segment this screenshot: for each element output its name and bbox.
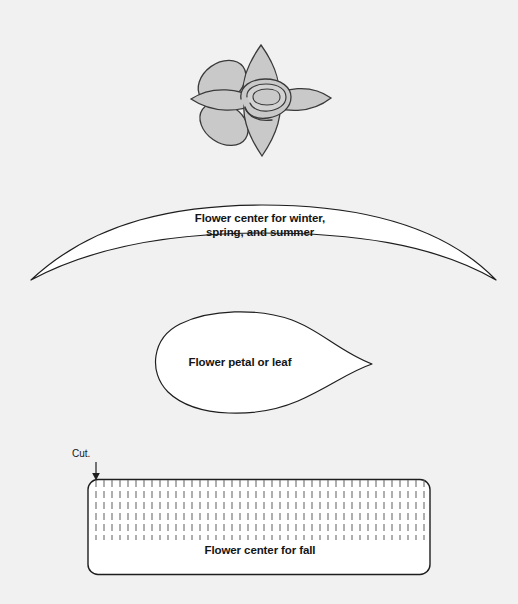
cut-instruction-label: Cut. [72,448,122,460]
pattern-sheet: Flower center for winter, spring, and su… [0,0,518,604]
fringe-template-label: Flower center for fall [160,544,360,558]
cut-arrow-icon [92,462,100,481]
flower-illustration [190,45,331,156]
crescent-template-label: Flower center for winter, spring, and su… [150,212,370,239]
fringe-template-group [88,462,430,575]
petal-template-label: Flower petal or leaf [140,356,340,370]
pattern-illustrations [0,0,518,604]
fringe-template-rect [88,480,430,575]
